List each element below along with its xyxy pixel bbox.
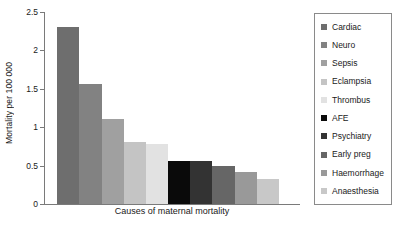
bar <box>102 119 124 204</box>
legend-swatch-icon <box>321 79 327 85</box>
legend-swatch-icon <box>321 152 327 158</box>
bar-chart-figure: Mortality per 100 000 00.511.522.5 Cause… <box>0 0 397 229</box>
y-tick-mark <box>40 127 44 128</box>
bar <box>79 84 101 204</box>
bar <box>212 166 234 204</box>
y-tick-label: 0.5 <box>26 161 38 171</box>
legend-entry[interactable]: Haemorrhage <box>321 165 391 181</box>
y-tick-label: 1 <box>33 122 38 132</box>
y-tick-label: 2 <box>33 45 38 55</box>
legend-swatch-icon <box>321 170 327 176</box>
x-axis-line <box>44 204 300 205</box>
legend-swatch-icon <box>321 133 327 139</box>
bar <box>235 172 257 204</box>
y-tick-mark <box>40 89 44 90</box>
legend-entry[interactable]: Psychiatry <box>321 128 391 144</box>
bars-container <box>45 12 300 204</box>
y-tick-mark <box>40 12 44 13</box>
legend-swatch-icon <box>321 24 327 30</box>
legend-entry[interactable]: Sepsis <box>321 55 391 71</box>
legend-entry[interactable]: Early preg <box>321 147 391 163</box>
legend-swatch-icon <box>321 115 327 121</box>
legend-entry[interactable]: Thrombus <box>321 92 391 108</box>
y-axis-tick-labels: 00.511.522.5 <box>17 0 41 229</box>
y-tick-label: 0 <box>33 199 38 209</box>
bar <box>257 179 279 204</box>
y-tick-label: 1.5 <box>26 84 38 94</box>
legend-label: Thrombus <box>332 96 370 105</box>
legend-entry[interactable]: AFE <box>321 110 391 126</box>
legend-label: Sepsis <box>332 59 358 68</box>
legend-swatch-icon <box>321 97 327 103</box>
legend-label: Early preg <box>332 150 371 159</box>
legend-entry[interactable]: Neuro <box>321 37 391 53</box>
legend-entry[interactable]: Anaesthesia <box>321 183 391 199</box>
bar <box>190 161 212 204</box>
legend-label: Haemorrhage <box>332 169 384 178</box>
legend-swatch-icon <box>321 188 327 194</box>
plot-area <box>44 12 300 204</box>
legend-swatch-icon <box>321 60 327 66</box>
legend-label: Cardiac <box>332 23 361 32</box>
bar <box>57 27 79 204</box>
y-tick-mark <box>40 204 44 205</box>
y-axis-title: Mortality per 100 000 <box>0 0 18 205</box>
legend-box: CardiacNeuroSepsisEclampsiaThrombusAFEPs… <box>314 13 392 205</box>
x-axis-title: Causes of maternal mortality <box>44 206 300 216</box>
legend-entry[interactable]: Eclampsia <box>321 74 391 90</box>
bar <box>146 144 168 204</box>
legend-label: Eclampsia <box>332 77 371 86</box>
legend-label: AFE <box>332 114 349 123</box>
y-axis-title-text: Mortality per 100 000 <box>4 62 14 144</box>
y-tick-mark <box>40 166 44 167</box>
bar <box>124 142 146 204</box>
y-tick-label: 2.5 <box>26 7 38 17</box>
legend-swatch-icon <box>321 42 327 48</box>
legend-label: Anaesthesia <box>332 187 379 196</box>
y-tick-mark <box>40 50 44 51</box>
bar <box>168 161 190 204</box>
legend-label: Psychiatry <box>332 132 371 141</box>
legend-label: Neuro <box>332 41 355 50</box>
legend-entry[interactable]: Cardiac <box>321 19 391 35</box>
